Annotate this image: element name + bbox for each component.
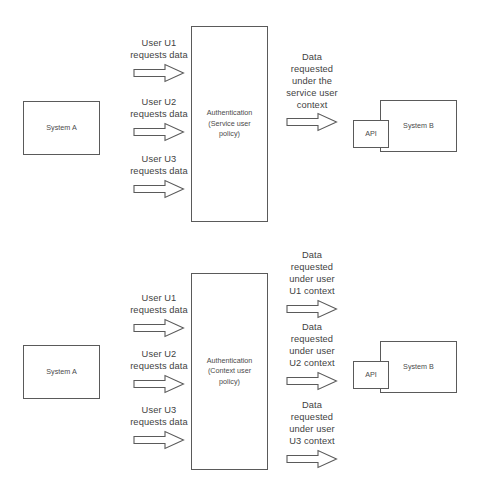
response-arrow-group-u3-bottom: Data requested under user U3 context <box>272 400 352 469</box>
request-arrow-group-u3-top: User U3 requests data <box>120 154 198 199</box>
system-b-box-top: System B <box>380 100 457 152</box>
authentication-box-top: Authentication (Service user policy) <box>191 26 268 222</box>
system-a-label-top: System A <box>43 123 79 133</box>
request-arrow-label-u2-top: User U2 requests data <box>130 97 188 121</box>
api-box-bottom: API <box>353 361 389 389</box>
block-arrow-right-icon <box>286 371 338 391</box>
diagram-canvas: System A Authentication (Service user po… <box>0 0 483 494</box>
request-arrow-group-u2-top: User U2 requests data <box>120 97 198 142</box>
response-arrow-label-service-top: Data requested under the service user co… <box>286 52 337 111</box>
request-arrow-label-u1-bottom: User U1 requests data <box>130 293 188 317</box>
api-box-top: API <box>353 120 389 148</box>
block-arrow-right-icon <box>286 112 338 132</box>
request-arrow-label-u3-top: User U3 requests data <box>130 154 188 178</box>
block-arrow-right-icon <box>286 449 338 469</box>
request-arrow-group-u2-bottom: User U2 requests data <box>120 349 198 394</box>
request-arrow-label-u2-bottom: User U2 requests data <box>130 349 188 373</box>
block-arrow-right-icon <box>286 299 338 319</box>
request-arrow-group-u3-bottom: User U3 requests data <box>120 405 198 450</box>
system-a-box-top: System A <box>23 101 100 155</box>
request-arrow-label-u1-top: User U1 requests data <box>130 38 188 62</box>
request-arrow-group-u1-bottom: User U1 requests data <box>120 293 198 338</box>
request-arrow-label-u3-bottom: User U3 requests data <box>130 405 188 429</box>
block-arrow-right-icon <box>133 122 185 142</box>
response-arrow-label-u3-bottom: Data requested under user U3 context <box>289 400 334 448</box>
request-arrow-group-u1-top: User U1 requests data <box>120 38 198 83</box>
response-arrow-label-u1-bottom: Data requested under user U1 context <box>289 250 334 298</box>
response-arrow-label-u2-bottom: Data requested under user U2 context <box>289 322 334 370</box>
response-arrow-group-u1-bottom: Data requested under user U1 context <box>272 250 352 319</box>
block-arrow-right-icon <box>133 374 185 394</box>
system-a-label-bottom: System A <box>43 367 79 377</box>
api-label-top: API <box>362 129 380 139</box>
system-b-label-top: System B <box>400 121 437 131</box>
system-b-box-bottom: System B <box>380 341 457 393</box>
system-a-box-bottom: System A <box>23 345 100 399</box>
response-arrow-group-service-top: Data requested under the service user co… <box>272 52 352 132</box>
api-label-bottom: API <box>362 370 380 380</box>
block-arrow-right-icon <box>133 179 185 199</box>
block-arrow-right-icon <box>133 63 185 83</box>
authentication-label-bottom: Authentication (Context user policy) <box>204 356 256 387</box>
system-b-label-bottom: System B <box>400 362 437 372</box>
authentication-box-bottom: Authentication (Context user policy) <box>191 273 268 470</box>
authentication-label-top: Authentication (Service user policy) <box>204 108 256 139</box>
block-arrow-right-icon <box>133 430 185 450</box>
block-arrow-right-icon <box>133 318 185 338</box>
response-arrow-group-u2-bottom: Data requested under user U2 context <box>272 322 352 391</box>
